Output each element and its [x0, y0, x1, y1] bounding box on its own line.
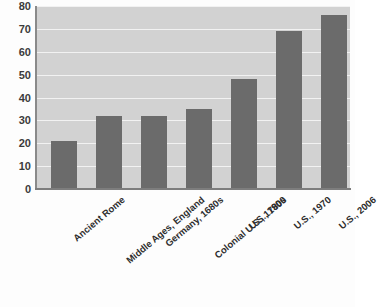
y-tick-label: 10 — [1, 161, 31, 172]
y-tick-label: 50 — [1, 69, 31, 80]
x-tick-label: Middle Ages, England — [124, 194, 206, 266]
x-tick-label: U.S., 1970 — [291, 194, 332, 231]
bar — [231, 79, 257, 189]
gridline — [37, 29, 350, 30]
y-tick-label: 30 — [1, 115, 31, 126]
bar-fill — [96, 116, 122, 189]
bar — [96, 116, 122, 189]
gridline — [37, 75, 350, 76]
bar-fill — [321, 15, 347, 189]
bar — [141, 116, 167, 189]
bar — [321, 15, 347, 189]
y-tick-label: 70 — [1, 23, 31, 34]
bar — [51, 141, 77, 189]
x-tick-label: U.S., 1900 — [246, 194, 287, 231]
gridline — [37, 52, 350, 53]
x-axis: Ancient RomeMiddle Ages, EnglandGermany,… — [35, 190, 350, 305]
y-axis: 01020304050607080 — [0, 6, 31, 189]
bar-fill — [231, 79, 257, 189]
gridline — [37, 6, 350, 7]
y-tick-label: 60 — [1, 46, 31, 57]
bar-fill — [276, 31, 302, 189]
plot-area — [35, 6, 350, 189]
y-tick-label: 40 — [1, 92, 31, 103]
bar — [276, 31, 302, 189]
y-tick-label: 0 — [1, 184, 31, 195]
y-tick-label: 80 — [1, 1, 31, 12]
y-tick-label: 20 — [1, 138, 31, 149]
bar-fill — [141, 116, 167, 189]
gridline — [37, 98, 350, 99]
x-tick-label: U.S., 2006 — [336, 194, 377, 231]
bar-fill — [186, 109, 212, 189]
x-tick-label: Ancient Rome — [70, 194, 126, 243]
bar-fill — [51, 141, 77, 189]
bar — [186, 109, 212, 189]
